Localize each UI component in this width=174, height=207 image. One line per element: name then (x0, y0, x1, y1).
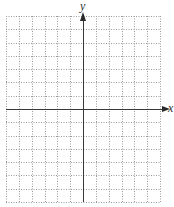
grid-svg (0, 0, 174, 207)
x-axis-label: x (168, 102, 173, 114)
y-axis-arrowhead-icon (80, 12, 86, 21)
y-axis-label: y (80, 0, 85, 12)
